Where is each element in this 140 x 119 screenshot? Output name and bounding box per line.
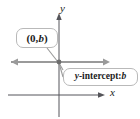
diagram-vector-layer [0, 0, 140, 119]
x-axis-label: x [110, 87, 115, 98]
graph-line-right-arrowhead [103, 59, 110, 66]
y-intercept-diagram: y x (0, b) y-intercept: b [0, 0, 140, 119]
y-intercept-callout: y-intercept: b [63, 68, 138, 86]
y-intercept-callout-variable: b [122, 72, 127, 82]
point-callout-leader-line [47, 48, 58, 62]
y-axis-label: y [60, 3, 65, 14]
y-axis-arrowhead [56, 13, 61, 20]
x-axis-arrowhead [98, 92, 105, 97]
y-intercept-point-dot [57, 60, 62, 65]
point-coordinates-prefix: (0, [26, 33, 38, 44]
x-axis-group [8, 92, 105, 97]
point-coordinates-suffix: ) [44, 33, 48, 44]
graph-line-left-arrowhead [11, 59, 18, 66]
y-intercept-callout-middle: -intercept: [79, 72, 122, 82]
point-coordinates-callout: (0, b) [16, 28, 58, 48]
